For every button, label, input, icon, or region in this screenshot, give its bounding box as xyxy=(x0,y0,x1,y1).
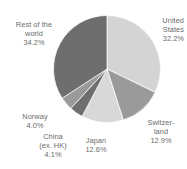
pie-label-rest-of-world: Rest of the world 34.2% xyxy=(2,20,66,48)
pie-chart: United States 32.2% Rest of the world 34… xyxy=(0,0,187,169)
pie-label-china: China (ex. HK) 4.1% xyxy=(30,132,76,160)
pie-label-japan: Japan 12.6% xyxy=(72,136,120,154)
pie-label-united-states: United States 32.2% xyxy=(138,16,184,44)
pie-label-switzerland: Switzer- land 12.9% xyxy=(139,118,183,146)
pie-label-norway: Norway 4.0% xyxy=(11,112,59,130)
